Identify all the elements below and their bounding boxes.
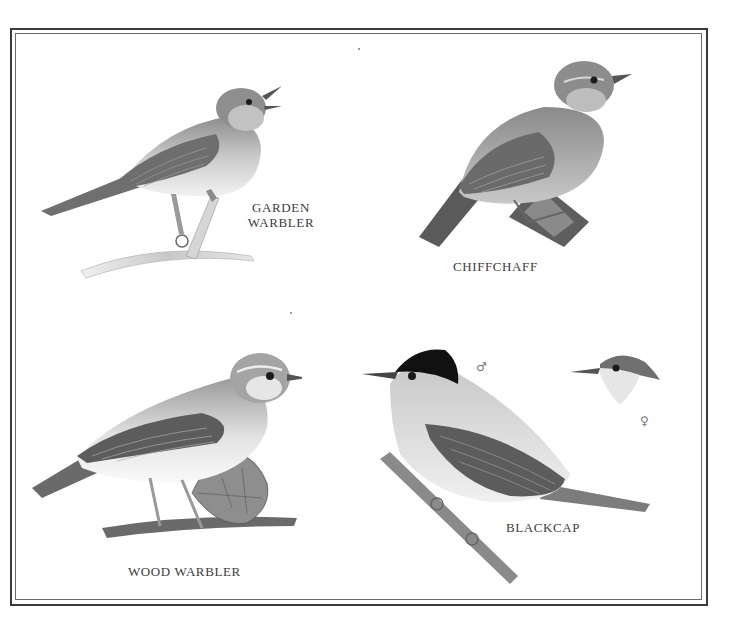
wood-warbler-illustration	[32, 348, 302, 548]
blackcap-label: BLACKCAP	[506, 520, 580, 535]
wood-warbler-label: WOOD WARBLER	[128, 564, 241, 579]
garden-warbler-label: GARDEN WARBLER	[246, 200, 316, 230]
illustration-plate: GARDEN WARBLER CHIFFCHAFF	[16, 34, 701, 599]
blackcap-female-head-illustration	[570, 350, 662, 410]
female-symbol-icon: ♀	[640, 414, 649, 428]
chiffchaff-illustration	[414, 52, 634, 252]
garden-warbler-label-line2: WARBLER	[246, 215, 316, 230]
garden-warbler-label-line1: GARDEN	[246, 200, 316, 215]
garden-warbler-illustration	[36, 56, 286, 281]
male-symbol-icon: ♂	[476, 360, 487, 374]
chiffchaff-label: CHIFFCHAFF	[453, 259, 538, 274]
paper-speck	[358, 48, 360, 50]
paper-speck	[290, 312, 292, 314]
